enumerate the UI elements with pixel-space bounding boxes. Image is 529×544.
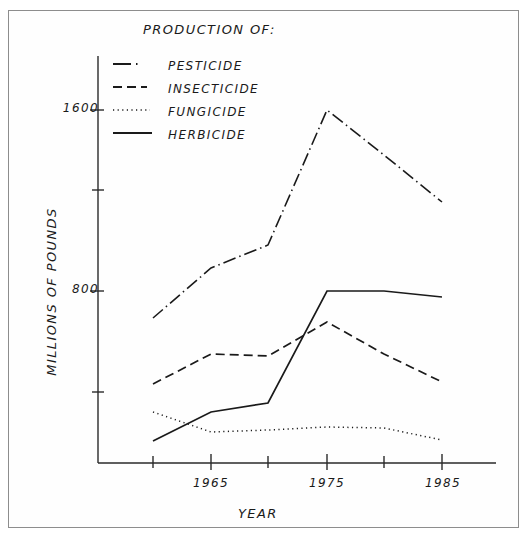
- chart-canvas: [0, 0, 529, 544]
- x-tick-label-1975: 1975: [303, 476, 351, 490]
- chart-title: PRODUCTION OF:: [143, 22, 276, 37]
- y-tick-label-1600: 1600: [47, 101, 99, 115]
- series-line-fungicide: [153, 412, 442, 440]
- series-line-herbicide: [153, 291, 442, 441]
- x-tick-label-1965: 1965: [187, 476, 235, 490]
- x-axis-title: YEAR: [238, 506, 278, 521]
- x-axis-ticks: [153, 454, 442, 470]
- legend-label-fungicide: FUNGICIDE: [168, 105, 247, 119]
- y-axis-title: MILLIONS OF POUNDS: [44, 197, 59, 387]
- series-line-insecticide: [153, 322, 442, 384]
- y-axis-ticks: [90, 110, 104, 392]
- legend-label-herbicide: HERBICIDE: [168, 128, 246, 142]
- legend-label-insecticide: INSECTICIDE: [168, 82, 259, 96]
- legend-label-pesticide: PESTICIDE: [168, 59, 243, 73]
- x-tick-label-1985: 1985: [419, 476, 467, 490]
